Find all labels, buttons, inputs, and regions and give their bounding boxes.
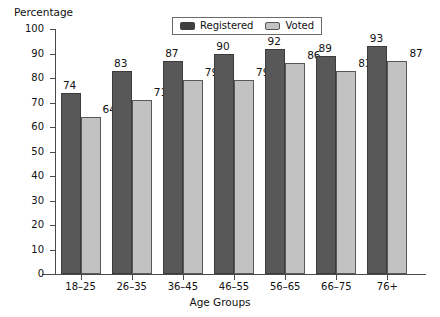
bar-voted-6 [387,61,407,274]
bar-value-label: 89 [315,43,335,54]
x-tick-mark [183,275,184,280]
legend-swatch-voted-icon [265,22,280,30]
bar-value-label: 87 [409,48,422,59]
x-category-label: 46–55 [208,281,259,292]
bar-registered-0 [61,93,81,274]
legend-item-registered: Registered [180,21,253,31]
y-tick-label: 10 [10,245,44,255]
x-category-label: 76+ [362,281,413,292]
bar-value-label: 92 [264,36,284,47]
bar-registered-5 [316,56,336,274]
x-category-label: 66–75 [311,281,362,292]
x-tick-mark [336,275,337,280]
bar-registered-6 [367,46,387,274]
x-tick-mark [234,275,235,280]
bar-voted-4 [285,63,305,274]
plot-area: 7464837187799079928689839387 [55,29,413,274]
y-tick-label: 30 [10,196,44,206]
x-tick-mark [81,275,82,280]
legend-label-voted: Voted [285,21,314,31]
bar-registered-3 [214,54,234,275]
bar-voted-3 [234,80,254,274]
bar-value-label: 74 [60,80,80,91]
x-category-label: 36–45 [157,281,208,292]
bar-value-label: 90 [213,41,233,52]
chart-legend: Registered Voted [172,17,322,35]
y-tick-label: 20 [10,220,44,230]
x-category-label: 18–25 [55,281,106,292]
bar-chart: Percentage 1009080706050403020100 746483… [0,0,440,317]
y-tick-label: 90 [10,49,44,59]
y-axis-title: Percentage [14,6,73,18]
bar-registered-1 [112,71,132,274]
y-tick-label: 0 [10,269,44,279]
x-tick-mark [132,275,133,280]
bar-value-label: 83 [111,58,131,69]
bar-voted-2 [183,80,203,274]
legend-label-registered: Registered [200,21,253,31]
legend-swatch-registered-icon [180,22,195,30]
legend-item-voted: Voted [265,21,314,31]
bar-voted-1 [132,100,152,274]
bar-voted-5 [336,71,356,274]
y-tick-label: 60 [10,122,44,132]
bar-value-label: 93 [366,33,386,44]
bar-voted-0 [81,117,101,274]
y-tick-label: 80 [10,73,44,83]
bar-registered-2 [163,61,183,274]
y-tick-label: 70 [10,98,44,108]
y-tick-label: 100 [10,24,44,34]
y-tick-mark [50,274,55,275]
y-tick-label: 50 [10,147,44,157]
x-tick-mark [285,275,286,280]
y-tick-label: 40 [10,171,44,181]
bar-registered-4 [265,49,285,274]
x-tick-mark [387,275,388,280]
x-category-label: 26–35 [106,281,157,292]
bar-value-label: 87 [162,48,182,59]
x-category-label: 56–65 [260,281,311,292]
x-axis-title: Age Groups [0,296,440,308]
